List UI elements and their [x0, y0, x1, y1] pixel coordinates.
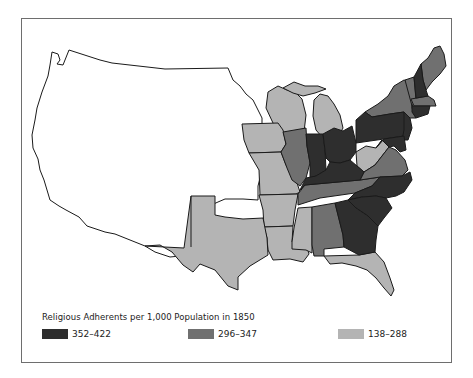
legend-label-low: 138–288	[368, 329, 407, 339]
state-connecticut	[412, 106, 430, 118]
legend-swatch-medium	[188, 329, 214, 339]
legend-swatch-low	[338, 329, 364, 339]
legend-title: Religious Adherents per 1,000 Population…	[42, 312, 255, 322]
state-iowa	[242, 123, 286, 153]
legend-item-low: 138–288	[338, 329, 407, 339]
legend-item-medium: 296–347	[188, 329, 257, 339]
legend-label-medium: 296–347	[218, 329, 257, 339]
state-arkansas	[259, 194, 298, 227]
legend-swatch-high	[42, 329, 68, 339]
state-maine	[421, 46, 446, 90]
state-ohio	[323, 126, 356, 163]
legend-item-high: 352–422	[42, 329, 111, 339]
legend-label-high: 352–422	[72, 329, 111, 339]
state-florida	[324, 252, 394, 296]
